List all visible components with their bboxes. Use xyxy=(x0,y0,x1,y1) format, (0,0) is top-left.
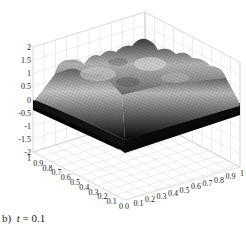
y-tick-label: 0 xyxy=(119,202,123,211)
z-tick-label: -1.5 xyxy=(18,135,31,144)
x-tick-label: 0.4 xyxy=(168,189,178,198)
surface xyxy=(33,39,240,153)
y-tick-label: 1 xyxy=(27,154,31,163)
x-tick-label: 0.9 xyxy=(226,172,236,181)
x-tick-label: 0.8 xyxy=(214,176,224,185)
z-tick-label: 0.5 xyxy=(21,82,31,91)
caption-equals: = xyxy=(22,212,28,224)
caption-value: 0.1 xyxy=(31,212,45,224)
caption-label: b) xyxy=(2,212,11,224)
x-tick-label: 0.2 xyxy=(145,195,155,204)
x-tick-label: 0 xyxy=(125,202,129,211)
surface-plot: 21.510.50-0.5-1-1.5-2 10.90.80.70.60.50.… xyxy=(0,0,246,233)
x-tick-label: 0.3 xyxy=(157,192,167,201)
z-tick-label: -0.5 xyxy=(18,109,31,118)
y-tick-label: 0.1 xyxy=(107,197,117,206)
z-tick-label: 0 xyxy=(27,96,31,105)
x-tick-label: 0.1 xyxy=(134,199,144,208)
figure-caption: b) t = 0.1 xyxy=(2,212,45,224)
y-axis: 10.90.80.70.60.50.40.30.20.10 xyxy=(27,154,123,211)
z-tick-label: 1 xyxy=(27,69,31,78)
z-tick-label: -1 xyxy=(24,122,31,131)
x-tick-label: 0.6 xyxy=(191,182,201,191)
x-tick-label: 0.5 xyxy=(180,186,190,195)
x-tick-label: 1 xyxy=(240,169,244,178)
x-tick-label: 0.7 xyxy=(203,179,213,188)
z-tick-label: 2 xyxy=(27,43,31,52)
caption-variable: t xyxy=(17,212,20,224)
z-axis: 21.510.50-0.5-1-1.5-2 xyxy=(18,43,31,157)
z-tick-label: 1.5 xyxy=(21,56,31,65)
